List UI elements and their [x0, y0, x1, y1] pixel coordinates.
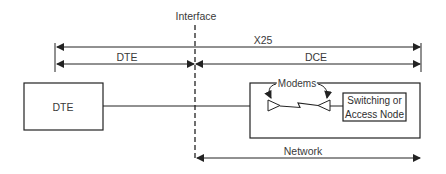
modem-left-icon [268, 100, 280, 111]
dte-box-label: DTE [53, 102, 74, 113]
modems-pointer-left [269, 84, 276, 98]
x25-label: X25 [254, 35, 273, 46]
dte-span-label: DTE [117, 52, 138, 63]
switching-node-label: Switching or Access Node [343, 94, 406, 121]
switching-node-label-line2: Access Node [343, 108, 406, 122]
switching-node-label-line1: Switching or [343, 94, 406, 108]
modems-pointer-right [318, 84, 327, 98]
dce-span-label: DCE [305, 52, 327, 63]
interface-label: Interface [176, 11, 217, 22]
diagram-canvas [0, 0, 446, 174]
modem-right-icon [318, 100, 330, 111]
network-label: Network [284, 146, 323, 157]
modems-label: Modems [277, 79, 317, 89]
modem-lightning-link [280, 103, 318, 108]
